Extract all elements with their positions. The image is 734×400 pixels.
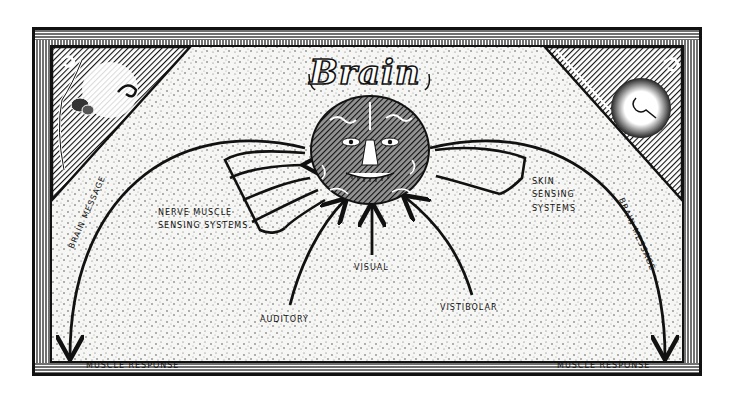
muscle-response-right-label: MUSCLE RESPONSE [557, 360, 650, 372]
skin-label-line3: SYSTEMS [532, 203, 576, 215]
diagram-title: Brain [300, 52, 430, 92]
muscle-response-left-label: MUSCLE RESPONSE [86, 360, 179, 372]
skin-label-line2: SENSING [532, 189, 575, 201]
skin-label-line1: SKIN [532, 176, 555, 188]
nerve-muscle-label-line2: SENSING SYSTEMS. [158, 220, 252, 232]
auditory-label: AUDITORY [260, 314, 309, 326]
visual-label: VISUAL [354, 262, 389, 274]
nerve-muscle-label-line1: NERVE MUSCLE [158, 207, 232, 219]
vestibular-label: VISTIBOLAR [440, 302, 497, 314]
brain-diagram: Brain NERVE MUSCLE SENSING SYSTEMS. SKIN… [0, 0, 734, 400]
